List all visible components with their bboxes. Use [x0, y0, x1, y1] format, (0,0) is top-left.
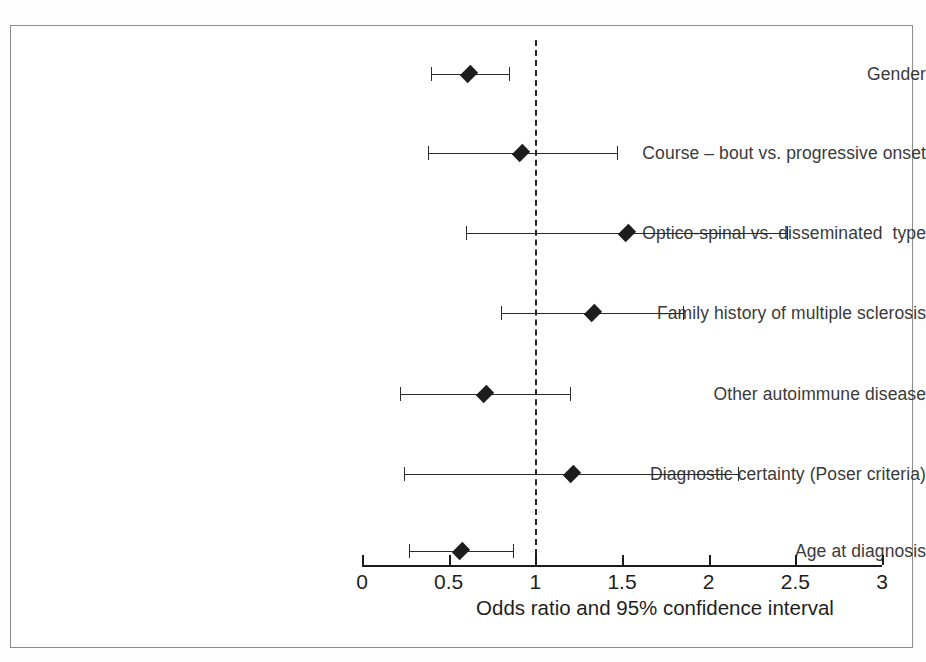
x-axis-tick — [882, 555, 884, 565]
category-label: Gender — [574, 64, 926, 85]
x-axis-tick-label: 0.5 — [434, 570, 463, 594]
ci-lower-cap — [404, 467, 405, 481]
ci-upper-cap — [738, 467, 739, 481]
null-reference-line — [535, 40, 537, 565]
ci-lower-cap — [501, 306, 502, 320]
x-axis-title: Odds ratio and 95% confidence interval — [476, 596, 834, 620]
x-axis-tick-label: 2.5 — [781, 570, 810, 594]
odds-ratio-marker — [460, 65, 478, 83]
ci-lower-cap — [428, 146, 429, 160]
x-axis-tick — [795, 555, 797, 565]
x-axis-tick-label: 0 — [356, 570, 368, 594]
x-axis-tick-label: 3 — [876, 570, 888, 594]
category-label: Other autoimmune disease — [574, 384, 926, 405]
ci-lower-cap — [431, 67, 432, 81]
odds-ratio-marker — [476, 385, 494, 403]
x-axis-tick — [622, 555, 624, 565]
ci-lower-cap — [466, 226, 467, 240]
ci-lower-cap — [409, 544, 410, 558]
ci-upper-cap — [787, 226, 788, 240]
x-axis-tick — [449, 555, 451, 565]
odds-ratio-marker — [452, 542, 470, 560]
plot-area: GenderCourse – bout vs. progressive onse… — [0, 0, 926, 662]
category-label: Course – bout vs. progressive onset — [574, 143, 926, 164]
x-axis-tick — [362, 555, 364, 565]
odds-ratio-marker — [512, 144, 530, 162]
x-axis-line — [362, 565, 882, 567]
x-axis-tick-label: 2 — [703, 570, 715, 594]
ci-upper-cap — [683, 306, 684, 320]
ci-upper-cap — [617, 146, 618, 160]
ci-lower-cap — [400, 387, 401, 401]
x-axis-tick — [535, 555, 537, 565]
forest-plot-figure: GenderCourse – bout vs. progressive onse… — [0, 0, 926, 662]
ci-upper-cap — [509, 67, 510, 81]
category-label: Age at diagnosis — [574, 541, 926, 562]
ci-upper-cap — [513, 544, 514, 558]
x-axis-tick — [709, 555, 711, 565]
ci-upper-cap — [570, 387, 571, 401]
x-axis-tick-label: 1.5 — [607, 570, 636, 594]
x-axis-tick-label: 1 — [529, 570, 541, 594]
